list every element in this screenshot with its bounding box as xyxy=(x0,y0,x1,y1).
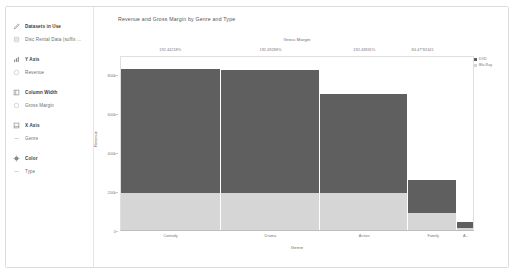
legend: DVDBlu-Ray xyxy=(474,56,504,68)
sidebar-field-gross-margin[interactable]: Gross Margin xyxy=(6,99,93,112)
column-width-icon xyxy=(12,88,21,97)
x-axis-tick-label: Family xyxy=(428,233,439,238)
top-axis-tick-label: 84.47*82441 xyxy=(412,47,434,52)
bar-segment-dvd[interactable] xyxy=(408,180,456,213)
y-axis-tick-mark xyxy=(116,231,118,232)
bar-segment-bluray[interactable] xyxy=(221,193,319,230)
shelf-header-column-width[interactable]: Column Width xyxy=(6,86,93,99)
y-axis-ticks: 800k600k400k200k0 xyxy=(96,56,118,231)
shelf-group-x-axis: X Axis Genre xyxy=(6,119,93,145)
sidebar-field-label: Type xyxy=(25,169,35,174)
bar-segment-bluray[interactable] xyxy=(320,193,407,230)
app-window: Datasets in Use Disc Rental Data (suffix… xyxy=(5,6,509,268)
dimension-icon xyxy=(12,167,21,176)
palette-icon xyxy=(12,154,21,163)
bar-column[interactable] xyxy=(320,57,408,230)
bar-segment-bluray[interactable] xyxy=(408,213,456,230)
shelf-header-label: X Axis xyxy=(25,123,40,128)
bar-column[interactable] xyxy=(408,57,457,230)
bar-segment-dvd[interactable] xyxy=(221,70,319,193)
database-icon xyxy=(12,35,21,44)
legend-swatch xyxy=(474,58,477,61)
x-axis-tick-label: Action xyxy=(359,233,370,238)
pencil-icon xyxy=(12,22,21,31)
sidebar-field-disc-rental-data[interactable]: Disc Rental Data (suffix ... xyxy=(6,33,93,46)
main-content: Revenue and Gross Margin by Genre and Ty… xyxy=(94,7,508,267)
chart-plot-area: Gross Margin 192.44218%192.49288%192.438… xyxy=(120,37,474,241)
sidebar-field-label: Genre xyxy=(25,136,38,141)
bar-column[interactable] xyxy=(121,57,221,230)
top-axis-tick-label: 192.44218% xyxy=(159,47,181,52)
y-axis-tick-label: 800k xyxy=(108,73,116,78)
y-axis-tick-label: 600k xyxy=(108,112,116,117)
sidebar-field-revenue[interactable]: Revenue xyxy=(6,66,93,79)
bar-columns xyxy=(121,57,473,230)
x-axis-tick-label: Drama xyxy=(265,233,277,238)
bar-segment-dvd[interactable] xyxy=(320,94,407,194)
sidebar-field-genre[interactable]: Genre xyxy=(6,132,93,145)
top-axis-tick-label: 192.49288% xyxy=(260,47,282,52)
measure-icon xyxy=(12,101,21,110)
shelf-header-color[interactable]: Color xyxy=(6,152,93,165)
x-axis-icon xyxy=(12,121,21,130)
shelf-header-y-axis[interactable]: Y Axis xyxy=(6,53,93,66)
y-axis-tick-label: 400k xyxy=(108,151,116,156)
shelf-group-y-axis: Y Axis Revenue xyxy=(6,53,93,79)
shelf-group-color: Color Type xyxy=(6,152,93,178)
x-axis-ticks: ComedyDramaActionFamilyA... xyxy=(120,232,474,241)
bar-segment-dvd[interactable] xyxy=(121,69,220,194)
bar-column[interactable] xyxy=(221,57,320,230)
shelf-header-label: Column Width xyxy=(25,90,58,95)
shelf-header-label: Datasets in Use xyxy=(25,24,61,29)
bar-column[interactable] xyxy=(457,57,473,230)
y-axis-tick-mark xyxy=(116,153,118,154)
shelf-group-column-width: Column Width Gross Margin xyxy=(6,86,93,112)
sidebar-field-label: Revenue xyxy=(25,70,44,75)
y-axis-tick-mark xyxy=(116,75,118,76)
x-axis-tick-label: Comedy xyxy=(163,233,178,238)
measure-icon xyxy=(12,68,21,77)
shelf-group-datasets: Datasets in Use Disc Rental Data (suffix… xyxy=(6,20,93,46)
dimension-icon xyxy=(12,134,21,143)
shelf-header-datasets-in-use[interactable]: Datasets in Use xyxy=(6,20,93,33)
legend-label: Blu-Ray xyxy=(479,63,492,67)
x-axis-title: Genre xyxy=(120,245,474,250)
shelf-header-x-axis[interactable]: X Axis xyxy=(6,119,93,132)
bar-segment-bluray[interactable] xyxy=(121,193,220,230)
y-axis-tick-mark xyxy=(116,192,118,193)
bar-chart-icon xyxy=(12,55,21,64)
x-axis-tick-label: A... xyxy=(463,233,469,238)
sidebar: Datasets in Use Disc Rental Data (suffix… xyxy=(6,7,94,267)
top-axis-title: Gross Margin xyxy=(120,37,474,42)
y-axis-tick-label: 200k xyxy=(108,190,116,195)
sidebar-field-label: Gross Margin xyxy=(25,103,54,108)
top-axis-tick-label: 192.43831% xyxy=(353,47,375,52)
legend-swatch xyxy=(474,64,477,67)
sidebar-field-label: Disc Rental Data (suffix ... xyxy=(25,37,81,42)
legend-item[interactable]: Blu-Ray xyxy=(474,62,504,68)
plot-frame xyxy=(120,56,474,231)
top-axis-ticks: 192.44218%192.49288%192.43831%84.47*8244… xyxy=(120,47,474,55)
shelf-header-label: Y Axis xyxy=(25,57,40,62)
bar-segment-bluray[interactable] xyxy=(457,228,473,230)
y-axis-tick-mark xyxy=(116,114,118,115)
legend-label: DVD xyxy=(479,57,487,61)
shelf-header-label: Color xyxy=(25,156,38,161)
chart-title: Revenue and Gross Margin by Genre and Ty… xyxy=(118,16,235,22)
sidebar-field-type[interactable]: Type xyxy=(6,165,93,178)
